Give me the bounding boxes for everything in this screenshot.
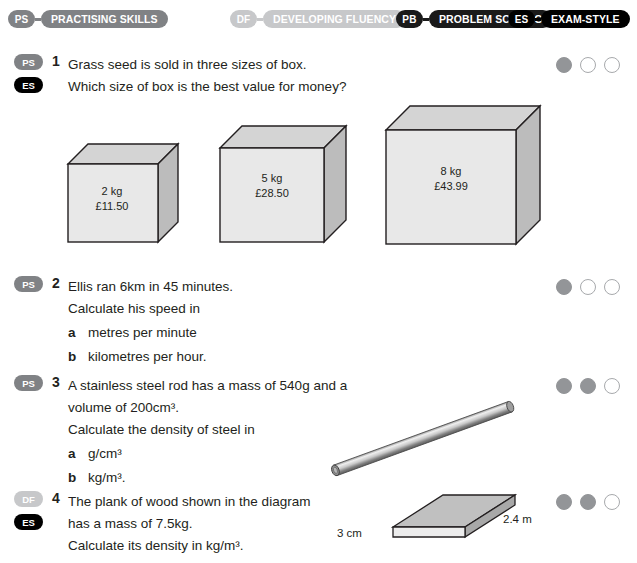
legend-item-developing-fluency: DF DEVELOPING FLUENCY [230, 10, 406, 28]
legend-item-practising-skills: PS PRACTISING SKILLS [8, 10, 168, 28]
legend-abbr-pb: PB [396, 10, 423, 28]
question-1-text: Grass seed is sold in three sizes of box… [68, 54, 346, 98]
box-small-label: 2 kg £11.50 [66, 184, 158, 214]
subpart-text: kilometres per hour. [88, 346, 207, 368]
difficulty-dots [556, 378, 620, 394]
subpart-letter: b [68, 346, 88, 368]
subpart-a: a g/cm³ [68, 443, 347, 465]
plank-diagram [345, 493, 525, 557]
question-line: Ellis ran 6km in 45 minutes. [68, 276, 233, 298]
question-line: A stainless steel rod has a mass of 540g… [68, 375, 347, 397]
tag-ps: PS [14, 54, 43, 70]
question-2-text: Ellis ran 6km in 45 minutes. Calculate h… [68, 276, 233, 368]
subpart-b: b kilometres per hour. [68, 346, 233, 368]
box-weight: 8 kg [386, 164, 516, 179]
subpart-letter: a [68, 443, 88, 465]
subpart-a: a metres per minute [68, 322, 233, 344]
question-line: The plank of wood shown in the diagram [68, 491, 310, 513]
difficulty-dot [580, 57, 596, 73]
difficulty-dot [604, 378, 620, 394]
question-4-text: The plank of wood shown in the diagram h… [68, 491, 310, 557]
question-2-tags: PS [14, 276, 48, 299]
question-3-tags: PS [14, 375, 48, 398]
legend-item-exam-style: ES EXAM-STYLE [508, 10, 630, 28]
legend-abbr-ps: PS [8, 10, 35, 28]
plank-height-label: 3 cm [337, 527, 362, 539]
plank-figure: 3 cm 2.4 m [345, 493, 525, 561]
question-number: 1 [52, 53, 60, 69]
question-line: Grass seed is sold in three sizes of box… [68, 54, 346, 76]
question-number: 2 [52, 275, 60, 291]
subpart-letter: b [68, 467, 88, 489]
question-number: 3 [52, 374, 60, 390]
question-1-tags: PS ES [14, 54, 48, 100]
question-line: volume of 200cm³. [68, 397, 347, 419]
tag-ps: PS [14, 276, 43, 292]
question-line: Calculate its density in kg/m³. [68, 535, 310, 557]
legend-abbr-es: ES [508, 10, 535, 28]
subpart-text: kg/m³. [88, 467, 126, 489]
difficulty-dot [556, 378, 572, 394]
difficulty-dots [556, 279, 620, 295]
difficulty-dot [556, 279, 572, 295]
subpart-letter: a [68, 322, 88, 344]
difficulty-dot [604, 494, 620, 510]
tag-df: DF [14, 491, 43, 507]
difficulty-dots [556, 57, 620, 73]
legend-bar: PS PRACTISING SKILLS DF DEVELOPING FLUEN… [0, 8, 637, 30]
question-line: Calculate his speed in [68, 298, 233, 320]
tag-es: ES [14, 514, 43, 530]
legend-name-es: EXAM-STYLE [541, 10, 630, 28]
question-line: has a mass of 7.5kg. [68, 513, 310, 535]
legend-name-df: DEVELOPING FLUENCY [263, 10, 406, 28]
question-line: Which size of box is the best value for … [68, 76, 346, 98]
difficulty-dot [556, 494, 572, 510]
plank-length-label: 2.4 m [503, 513, 532, 525]
box-weight: 2 kg [66, 184, 158, 199]
difficulty-dot [580, 378, 596, 394]
box-price: £43.99 [386, 179, 516, 194]
steel-rod-diagram [318, 395, 528, 483]
box-large-label: 8 kg £43.99 [386, 164, 516, 194]
difficulty-dot [580, 279, 596, 295]
tag-es: ES [14, 77, 43, 93]
box-price: £28.50 [220, 186, 324, 201]
question-number: 4 [52, 490, 60, 506]
box-price: £11.50 [66, 199, 158, 214]
difficulty-dot [580, 494, 596, 510]
legend-abbr-df: DF [230, 10, 257, 28]
tag-ps: PS [14, 375, 43, 391]
difficulty-dot [604, 279, 620, 295]
difficulty-dot [556, 57, 572, 73]
difficulty-dot [604, 57, 620, 73]
subpart-text: g/cm³ [88, 443, 122, 465]
question-4-tags: DF ES [14, 491, 48, 537]
box-medium-label: 5 kg £28.50 [220, 171, 324, 201]
grass-seed-boxes-figure: 2 kg £11.50 5 kg £28.50 8 kg £43.99 [0, 102, 637, 262]
box-weight: 5 kg [220, 171, 324, 186]
legend-name-ps: PRACTISING SKILLS [41, 10, 168, 28]
question-3-text: A stainless steel rod has a mass of 540g… [68, 375, 347, 489]
subpart-b: b kg/m³. [68, 467, 347, 489]
difficulty-dots [556, 494, 620, 510]
steel-rod-figure [318, 395, 528, 487]
question-line: Calculate the density of steel in [68, 419, 347, 441]
subpart-text: metres per minute [88, 322, 197, 344]
